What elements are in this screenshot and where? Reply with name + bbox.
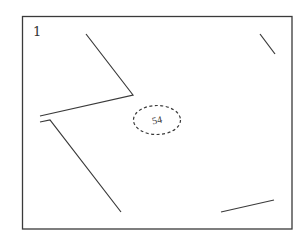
diagram-canvas: 1 54	[0, 0, 306, 246]
frame-number-label: 1	[33, 24, 41, 39]
